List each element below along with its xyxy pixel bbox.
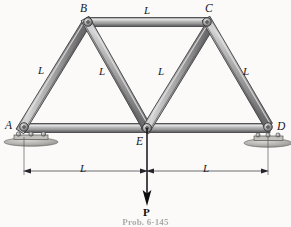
support-d: [244, 133, 291, 147]
member-ab: [16, 22, 90, 134]
member-label-bc: L: [144, 5, 150, 16]
joint-label-d: D: [277, 121, 285, 133]
member-label-ab: L: [38, 65, 44, 76]
member-be: [81, 16, 151, 130]
member-label-ce: L: [158, 66, 164, 77]
dimension-label-left: L: [80, 163, 86, 174]
member-ed: [147, 124, 270, 133]
support-a: [4, 132, 58, 146]
member-ae: [22, 124, 147, 133]
joint-label-b: B: [80, 3, 87, 15]
member-label-be: L: [99, 66, 105, 77]
member-ce: [141, 22, 215, 134]
joint-c: [203, 18, 212, 27]
figure-caption: Prob. 6-145: [0, 218, 291, 227]
truss-figure: A B C D E L L L L L L L P Prob. 6-145: [0, 0, 291, 227]
member-label-cd: L: [243, 66, 249, 77]
member-bc: [87, 18, 208, 27]
member-cd: [202, 16, 272, 128]
joint-b: [84, 18, 93, 27]
joint-label-e: E: [136, 136, 143, 148]
joint-label-c: C: [205, 3, 213, 15]
truss-members: [16, 16, 272, 133]
truss-drawing: [0, 0, 291, 227]
joint-d: [264, 123, 273, 132]
dimension-lines: [23, 137, 269, 175]
dimension-label-right: L: [203, 163, 209, 174]
joint-a: [20, 123, 29, 132]
joint-label-a: A: [5, 120, 12, 132]
